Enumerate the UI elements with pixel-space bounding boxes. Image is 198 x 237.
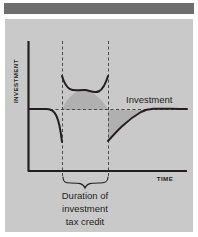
caption-line-3: tax credit xyxy=(66,216,105,227)
figure-container: INVESTMENT TIME Investment Duration of i… xyxy=(0,0,198,237)
caption-line-1: Duration of xyxy=(62,190,109,201)
duration-brace-icon xyxy=(63,177,108,188)
x-axis-label: TIME xyxy=(157,175,173,182)
header-bar xyxy=(4,3,194,14)
y-axis-label: INVESTMENT xyxy=(12,59,19,103)
excess-investment-area xyxy=(62,90,108,110)
chart-panel: INVESTMENT TIME Investment Duration of i… xyxy=(5,19,193,232)
caption-line-2: investment xyxy=(62,203,108,214)
investment-tax-credit-chart: INVESTMENT TIME Investment Duration of i… xyxy=(5,19,193,232)
series-label: Investment xyxy=(126,94,173,105)
investment-curve-during-credit xyxy=(62,76,108,92)
investment-curve-pre-credit xyxy=(29,109,62,142)
